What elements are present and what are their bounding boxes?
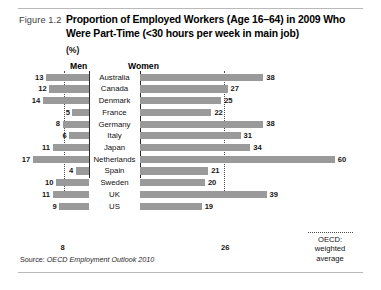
figure-number: Figure 1.2	[19, 15, 61, 25]
panel-heading-women: Women	[128, 61, 159, 71]
women-average-value: 26	[221, 243, 229, 252]
bar-men	[59, 203, 89, 210]
bar-value-women: 20	[208, 178, 216, 187]
bar-row: 13Australia38	[0, 72, 381, 84]
bar-value-men: 11	[42, 190, 50, 199]
bar-women	[140, 179, 205, 186]
bar-value-men: 9	[52, 202, 56, 211]
category-label: US	[92, 202, 137, 211]
panel-heading-men: Men	[70, 61, 87, 71]
bar-women	[140, 203, 202, 210]
bar-row: 6Italy31	[0, 130, 381, 142]
bar-men	[49, 85, 89, 92]
legend-dotted-line-icon	[308, 232, 353, 233]
men-average-value: 8	[61, 243, 65, 252]
bar-men	[46, 74, 89, 81]
bar-value-men: 12	[38, 84, 46, 93]
category-label: Sweden	[92, 178, 137, 187]
bottom-divider	[18, 272, 363, 273]
category-label: UK	[92, 190, 137, 199]
plot-area: 13Australia3812Canada2714Denmark255Franc…	[0, 71, 381, 216]
bar-value-women: 27	[231, 84, 239, 93]
bar-value-women: 31	[244, 131, 252, 140]
category-label: Italy	[92, 131, 137, 140]
bar-women	[140, 97, 221, 104]
bar-row: 4Spain21	[0, 165, 381, 177]
unit-label: (%)	[66, 45, 79, 55]
bar-value-men: 8	[56, 119, 60, 128]
oecd-legend: OECD: weighted average	[300, 232, 360, 263]
bar-women	[140, 132, 241, 139]
category-label: Denmark	[92, 96, 137, 105]
bar-row: 10Sweden20	[0, 177, 381, 189]
bar-women	[140, 109, 211, 116]
category-label: Netherlands	[92, 155, 137, 164]
bar-value-men: 5	[66, 108, 70, 117]
bar-men	[56, 179, 89, 186]
bar-value-men: 11	[42, 143, 50, 152]
top-divider	[18, 8, 363, 9]
bar-value-men: 4	[69, 166, 73, 175]
source-prefix: Source:	[20, 255, 45, 264]
bar-value-men: 10	[45, 178, 53, 187]
bar-value-men: 14	[32, 96, 40, 105]
figure-title: Proportion of Employed Workers (Age 16–6…	[66, 13, 364, 40]
bar-women	[140, 85, 228, 92]
bar-men	[63, 121, 89, 128]
bar-value-men: 17	[22, 155, 30, 164]
figure-container: Figure 1.2 Proportion of Employed Worker…	[0, 0, 381, 290]
bar-row: 8Germany38	[0, 118, 381, 130]
category-label: Japan	[92, 143, 137, 152]
bar-men	[69, 132, 89, 139]
bar-men	[53, 144, 89, 151]
bar-value-women: 25	[224, 96, 232, 105]
bar-women	[140, 167, 208, 174]
bar-women	[140, 156, 335, 163]
bar-value-women: 22	[214, 108, 222, 117]
bar-value-women: 38	[266, 119, 274, 128]
bar-value-women: 39	[270, 190, 278, 199]
bar-men	[43, 97, 89, 104]
bar-value-women: 34	[253, 143, 261, 152]
bar-row: 11UK39	[0, 189, 381, 201]
bar-row: 12Canada27	[0, 83, 381, 95]
source-note: Source: OECD Employment Outlook 2010	[20, 255, 154, 264]
bar-value-women: 19	[205, 202, 213, 211]
bar-women	[140, 191, 267, 198]
category-label: Australia	[92, 73, 137, 82]
bar-value-women: 38	[266, 73, 274, 82]
bar-row: 17Netherlands60	[0, 154, 381, 166]
bar-men	[72, 109, 89, 116]
bar-women	[140, 74, 263, 81]
category-label: Germany	[92, 120, 137, 129]
bar-row: 9US19	[0, 200, 381, 212]
legend-label-line1: OECD:	[300, 235, 360, 244]
bar-row: 11Japan34	[0, 142, 381, 154]
category-label: France	[92, 108, 137, 117]
bar-women	[140, 121, 263, 128]
category-label: Canada	[92, 84, 137, 93]
bar-row: 5France22	[0, 107, 381, 119]
bar-value-men: 13	[35, 73, 43, 82]
category-label: Spain	[92, 166, 137, 175]
bar-women	[140, 144, 250, 151]
source-citation: OECD Employment Outlook 2010	[47, 255, 154, 264]
legend-label-line2: weighted	[300, 244, 360, 253]
legend-label-line3: average	[300, 254, 360, 263]
bar-value-women: 21	[211, 166, 219, 175]
bar-value-women: 60	[338, 155, 346, 164]
bar-men	[53, 191, 89, 198]
bar-value-men: 6	[62, 131, 66, 140]
bar-men	[33, 156, 89, 163]
bar-men	[76, 167, 89, 174]
bar-row: 14Denmark25	[0, 95, 381, 107]
